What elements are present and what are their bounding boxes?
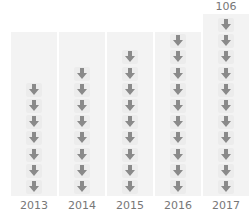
arrow-down-icon: [74, 131, 90, 145]
arrow-down-icon: [218, 50, 234, 64]
arrow-down-icon: [170, 115, 186, 129]
arrow-down-icon: [74, 99, 90, 113]
arrow-down-icon: [170, 131, 186, 145]
arrow-down-icon: [74, 148, 90, 162]
value-label: 106: [202, 0, 250, 13]
arrow-down-icon: [122, 180, 138, 194]
arrow-down-icon: [26, 83, 42, 97]
arrow-down-icon: [122, 99, 138, 113]
arrow-down-icon: [218, 115, 234, 129]
arrow-down-icon: [122, 83, 138, 97]
arrow-down-icon: [218, 18, 234, 32]
arrow-down-icon: [74, 164, 90, 178]
arrow-down-icon: [122, 164, 138, 178]
x-axis-label: 2015: [106, 199, 154, 212]
x-axis-label: 2017: [202, 199, 250, 212]
arrow-down-icon: [170, 148, 186, 162]
x-axis-label: 2013: [10, 199, 58, 212]
arrow-down-icon: [170, 67, 186, 81]
arrow-down-icon: [218, 148, 234, 162]
arrow-down-icon: [26, 148, 42, 162]
arrow-down-icon: [170, 83, 186, 97]
arrow-down-icon: [218, 164, 234, 178]
arrow-down-icon: [218, 180, 234, 194]
arrow-down-icon: [26, 99, 42, 113]
arrow-down-icon: [74, 180, 90, 194]
arrow-down-icon: [122, 67, 138, 81]
arrow-down-icon: [170, 50, 186, 64]
arrow-down-icon: [26, 115, 42, 129]
arrow-down-icon: [218, 34, 234, 48]
arrow-down-icon: [170, 180, 186, 194]
arrow-down-icon: [122, 148, 138, 162]
arrow-down-icon: [74, 67, 90, 81]
arrow-down-icon: [218, 67, 234, 81]
arrow-down-icon: [74, 83, 90, 97]
x-axis-label: 2014: [58, 199, 106, 212]
x-axis-label: 2016: [154, 199, 202, 212]
arrow-down-icon: [26, 180, 42, 194]
arrow-down-icon: [122, 50, 138, 64]
arrow-down-icon: [26, 131, 42, 145]
arrow-down-icon: [218, 131, 234, 145]
arrow-down-icon: [74, 115, 90, 129]
arrow-down-icon: [218, 99, 234, 113]
arrow-down-icon: [218, 83, 234, 97]
arrow-down-icon: [170, 99, 186, 113]
arrow-down-icon: [122, 115, 138, 129]
arrow-down-icon: [170, 164, 186, 178]
arrow-down-icon: [26, 164, 42, 178]
arrow-down-icon: [170, 34, 186, 48]
arrow-down-icon: [122, 131, 138, 145]
